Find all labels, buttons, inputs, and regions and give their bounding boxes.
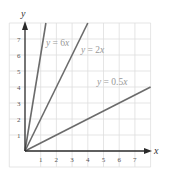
chart: x y 1 2 3 4 5 6 7 1 2 3 4 5 6 7 y = 6x y… — [0, 0, 170, 174]
label-y-6x: y = 6x — [45, 38, 70, 48]
x-tick-labels: 1 2 3 4 5 6 7 — [39, 156, 137, 164]
grid — [9, 23, 150, 167]
x-axis-label: x — [153, 145, 159, 156]
y-tick-labels: 1 2 3 4 5 6 7 — [17, 36, 21, 140]
y-axis-arrow-icon — [22, 21, 28, 30]
y-tick: 7 — [17, 36, 21, 44]
y-tick: 2 — [17, 116, 21, 124]
x-tick: 3 — [70, 156, 74, 164]
y-tick: 4 — [17, 84, 21, 92]
label-y-0-5x: y = 0.5x — [96, 77, 128, 87]
y-tick: 3 — [17, 100, 21, 108]
y-tick: 1 — [17, 132, 21, 140]
y-tick: 5 — [17, 68, 21, 76]
x-tick: 4 — [86, 156, 90, 164]
y-axis-label: y — [20, 8, 26, 19]
x-tick: 7 — [133, 156, 137, 164]
y-tick: 6 — [17, 52, 21, 60]
x-tick: 2 — [55, 156, 59, 164]
x-tick: 6 — [117, 156, 121, 164]
x-tick: 1 — [39, 156, 43, 164]
x-tick: 5 — [102, 156, 106, 164]
label-y-2x: y = 2x — [80, 45, 105, 55]
